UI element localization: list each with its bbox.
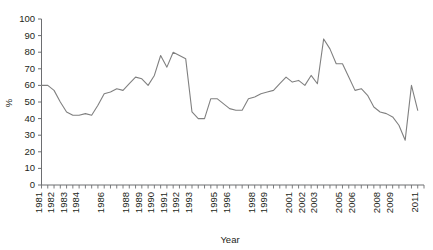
y-tick-label-50: 50 bbox=[24, 96, 35, 107]
x-tick-label-1995: 1995 bbox=[208, 192, 219, 213]
x-tick-label-2003: 2003 bbox=[308, 192, 319, 213]
x-tick-label-1990: 1990 bbox=[145, 192, 156, 213]
y-tick-label-40: 40 bbox=[24, 113, 35, 124]
y-tick-label-80: 80 bbox=[24, 46, 35, 57]
x-tick-label-1993: 1993 bbox=[183, 192, 194, 213]
x-tick-label-1999: 1999 bbox=[258, 192, 269, 213]
x-tick-label-1996: 1996 bbox=[221, 192, 232, 213]
x-tick-label-1984: 1984 bbox=[70, 192, 81, 213]
x-tick-label-1983: 1983 bbox=[58, 192, 69, 213]
y-tick-label-10: 10 bbox=[24, 162, 35, 173]
x-tick-label-2009: 2009 bbox=[384, 192, 395, 213]
y-tick-label-0: 0 bbox=[30, 179, 35, 190]
y-axis-title: % bbox=[3, 98, 14, 107]
axis-title-x-group: Year bbox=[220, 234, 239, 245]
axis-title-y-group: % bbox=[3, 98, 14, 107]
y-tick-label-90: 90 bbox=[24, 30, 35, 41]
line-chart: 0102030405060708090100 19811982198319841… bbox=[0, 0, 433, 250]
x-tick-label-1982: 1982 bbox=[45, 192, 56, 213]
y-tick-label-20: 20 bbox=[24, 146, 35, 157]
x-tick-label-1992: 1992 bbox=[170, 192, 181, 213]
y-tick-label-30: 30 bbox=[24, 129, 35, 140]
x-tick-label-1991: 1991 bbox=[158, 192, 169, 213]
chart-container: 0102030405060708090100 19811982198319841… bbox=[0, 0, 433, 250]
x-tick-label-2006: 2006 bbox=[346, 192, 357, 213]
x-tick-label-1986: 1986 bbox=[95, 192, 106, 213]
x-tick-label-1989: 1989 bbox=[133, 192, 144, 213]
y-tick-label-60: 60 bbox=[24, 79, 35, 90]
x-tick-label-2011: 2011 bbox=[409, 192, 420, 212]
y-tick-label-100: 100 bbox=[19, 13, 35, 24]
x-tick-label-2001: 2001 bbox=[283, 192, 294, 213]
x-tick-label-1981: 1981 bbox=[33, 192, 44, 213]
x-axis-title: Year bbox=[220, 234, 239, 245]
x-tick-label-2005: 2005 bbox=[333, 192, 344, 213]
x-tick-label-2002: 2002 bbox=[296, 192, 307, 213]
x-tick-label-1988: 1988 bbox=[120, 192, 131, 213]
x-tick-label-2008: 2008 bbox=[371, 192, 382, 213]
y-tick-label-70: 70 bbox=[24, 63, 35, 74]
x-tick-label-1998: 1998 bbox=[246, 192, 257, 213]
